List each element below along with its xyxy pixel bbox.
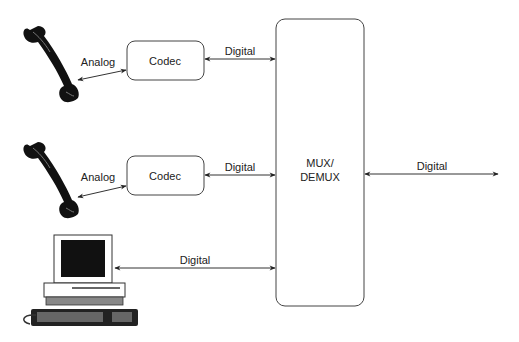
digital-label-1: Digital	[225, 46, 256, 57]
telephone-handset-icon	[23, 26, 78, 102]
codec-1-label: Codec	[149, 55, 181, 68]
telephone-handset-icon	[23, 142, 78, 218]
digital-label-2: Digital	[225, 162, 256, 173]
mux-label-line1: MUX/	[306, 157, 334, 170]
analog-label-1: Analog	[81, 57, 115, 68]
analog-link-2	[78, 186, 126, 197]
analog-label-2: Analog	[81, 172, 115, 183]
digital-label-out: Digital	[417, 161, 448, 172]
analog-link-1	[78, 70, 126, 80]
codec-2-label: Codec	[149, 170, 181, 183]
digital-label-computer: Digital	[180, 255, 211, 266]
mux-label-line2: DEMUX	[300, 171, 340, 184]
desktop-computer-icon	[24, 235, 138, 326]
